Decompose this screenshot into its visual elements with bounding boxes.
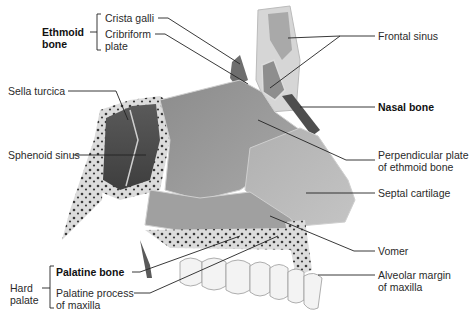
label-palatine-process: Palatine process of maxilla (56, 287, 134, 311)
label-perpendicular-line1: Perpendicular plate (378, 149, 468, 161)
label-cribriform-line2: plate (105, 40, 151, 52)
label-sella-turcica: Sella turcica (8, 85, 65, 97)
nasal-septum-diagram: Ethmoid bone Crista galli Cribriform pla… (0, 0, 473, 321)
label-palatine-bone: Palatine bone (56, 266, 124, 278)
label-perpendicular-line2: of ethmoid bone (378, 161, 468, 173)
label-alveolar-line1: Alveolar margin (378, 269, 451, 281)
label-alveolar-line2: of maxilla (378, 281, 451, 293)
label-septal-cartilage: Septal cartilage (378, 187, 450, 199)
label-hard-palate-line1: Hard (10, 282, 39, 294)
label-nasal-bone: Nasal bone (378, 101, 434, 113)
label-frontal-sinus: Frontal sinus (378, 30, 438, 42)
label-crista-galli: Crista galli (105, 12, 154, 24)
label-palatine-process-line2: of maxilla (56, 299, 134, 311)
label-ethmoid-bone: Ethmoid bone (42, 26, 84, 50)
label-ethmoid-line2: bone (42, 38, 84, 50)
label-hard-palate-line2: palate (10, 294, 39, 306)
label-sphenoid-sinus: Sphenoid sinus (8, 149, 80, 161)
label-cribriform-line1: Cribriform (105, 28, 151, 40)
label-alveolar-margin: Alveolar margin of maxilla (378, 269, 451, 293)
label-cribriform-plate: Cribriform plate (105, 28, 151, 52)
label-vomer: Vomer (378, 245, 408, 257)
label-perpendicular-plate: Perpendicular plate of ethmoid bone (378, 149, 468, 173)
label-hard-palate: Hard palate (10, 282, 39, 306)
label-palatine-process-line1: Palatine process (56, 287, 134, 299)
label-ethmoid-line1: Ethmoid (42, 26, 84, 38)
